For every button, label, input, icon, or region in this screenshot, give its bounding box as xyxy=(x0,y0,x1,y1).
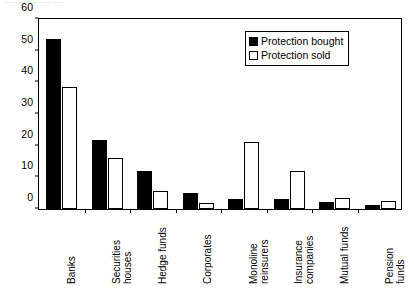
y-tick-mark xyxy=(35,208,39,209)
bar-protection-bought xyxy=(92,140,107,209)
bar-protection-sold xyxy=(62,87,77,209)
legend-label-protection-sold: Protection sold xyxy=(261,49,330,61)
bar-protection-sold xyxy=(381,201,396,209)
bar-group xyxy=(46,19,77,209)
bar-group xyxy=(92,19,123,209)
bar-protection-sold xyxy=(290,171,305,209)
bar-protection-sold xyxy=(108,158,123,209)
y-tick-mark xyxy=(35,81,39,82)
legend-item-protection-bought: Protection bought xyxy=(249,34,343,48)
y-tick-mark xyxy=(35,18,39,19)
y-tick-label: 50 xyxy=(21,33,39,45)
legend-label-protection-bought: Protection bought xyxy=(261,35,343,47)
bar-protection-bought xyxy=(183,193,198,209)
bar-group xyxy=(137,19,168,209)
x-tick-mark xyxy=(267,209,268,213)
y-tick-mark xyxy=(35,176,39,177)
bar-protection-sold xyxy=(153,191,168,209)
x-category-label: Monoline reinsurers xyxy=(248,214,270,284)
y-tick-label: 0 xyxy=(27,191,39,203)
x-tick-mark xyxy=(176,209,177,213)
bar-protection-bought xyxy=(228,199,243,209)
bar-group xyxy=(183,19,214,209)
legend-swatch-open-square-icon xyxy=(249,51,258,60)
x-category-label: Corporates xyxy=(202,214,213,284)
legend-swatch-filled-square-icon xyxy=(249,37,258,46)
bar-group xyxy=(365,19,396,209)
x-category-label: Mutual funds xyxy=(339,214,350,284)
chart-page: ........... .... ..... ..... 01020304050… xyxy=(0,0,414,290)
x-category-label: Banks xyxy=(66,214,77,284)
x-category-label: Securities houses xyxy=(111,214,133,284)
bar-protection-sold xyxy=(335,198,350,209)
bar-protection-bought xyxy=(274,199,289,209)
y-tick-label: 40 xyxy=(21,64,39,76)
y-tick-mark xyxy=(35,113,39,114)
y-tick-mark xyxy=(35,49,39,50)
bar-protection-sold xyxy=(199,203,214,209)
legend-item-protection-sold: Protection sold xyxy=(249,48,343,62)
y-tick-mark xyxy=(35,144,39,145)
x-category-label: Insurance companies xyxy=(293,214,315,284)
bar-protection-bought xyxy=(365,205,380,209)
cut-off-caption: ........... .... ..... ..... xyxy=(4,0,304,6)
x-tick-mark xyxy=(221,209,222,213)
x-tick-mark xyxy=(130,209,131,213)
bar-protection-sold xyxy=(244,142,259,209)
bar-protection-bought xyxy=(46,39,61,209)
x-tick-mark xyxy=(358,209,359,213)
x-tick-mark xyxy=(312,209,313,213)
x-tick-mark xyxy=(85,209,86,213)
x-category-label: Pension funds xyxy=(384,214,406,284)
bar-protection-bought xyxy=(319,202,334,209)
x-category-label: Hedge funds xyxy=(157,214,168,284)
y-tick-label: 60 xyxy=(21,1,39,13)
y-tick-label: 20 xyxy=(21,128,39,140)
y-tick-label: 10 xyxy=(21,159,39,171)
y-tick-label: 30 xyxy=(21,96,39,108)
bar-protection-bought xyxy=(137,171,152,209)
legend: Protection bought Protection sold xyxy=(245,31,349,66)
